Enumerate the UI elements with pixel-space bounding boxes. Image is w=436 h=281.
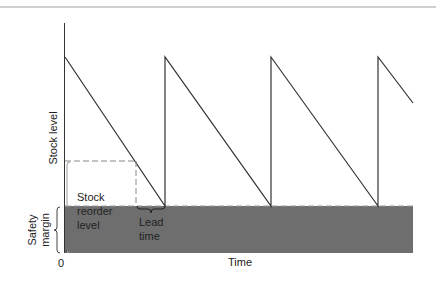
reorder-level-label-line3: level [77,219,100,231]
lead-time-label-line2: time [139,230,160,242]
reorder-level-label-line2: reorder [77,205,113,217]
reorder-level-label-line1: Stock [77,191,105,203]
safety-margin-label-line1: Safety [26,214,38,246]
x-axis-label: Time [228,256,252,268]
safety-margin-block [65,206,413,253]
origin-label: 0 [58,257,64,269]
lead-time-label-line1: Lead [139,216,163,228]
safety-margin-label-line2: margin [39,213,51,247]
safety-margin-brace [54,207,60,253]
stock-level-line [65,57,413,206]
stock-level-diagram: Stock level Safety margin Stock reorder … [0,0,436,281]
y-axis-label: Stock level [47,111,59,164]
